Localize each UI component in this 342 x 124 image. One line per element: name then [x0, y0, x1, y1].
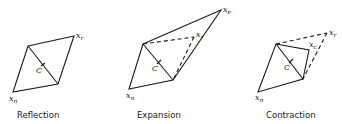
expansion-caption: Expansion	[137, 110, 181, 120]
contraction-diagonal	[276, 44, 303, 79]
expansion-xn-label: xn	[126, 91, 135, 101]
contraction-reflection-edge-bottom	[303, 33, 327, 79]
reflection-caption: Reflection	[17, 110, 59, 120]
expansion-reflection-edge-bottom	[173, 37, 194, 80]
simplex-operations-diagram: xr C xn xe xr C xn xr xc C xn	[0, 0, 342, 124]
expansion-xe-label: xe	[223, 5, 232, 15]
contraction-caption: Contraction	[266, 110, 316, 120]
expansion-c-label: C	[152, 64, 158, 73]
contraction-reflection-edge-top	[276, 33, 327, 44]
reflection-xr-label: xr	[76, 31, 85, 41]
expansion-diagonal	[143, 44, 173, 80]
expansion-xr-label: xr	[196, 30, 205, 40]
contraction-xr-label: xr	[329, 28, 338, 38]
reflection-c-label: C	[36, 66, 42, 75]
contraction-c-label: C	[284, 63, 290, 72]
contraction-xn-label: xn	[255, 93, 264, 103]
reflection-xn-label: xn	[9, 94, 18, 104]
contraction-xc-label: xc	[309, 40, 318, 50]
reflection-figure: xr C xn	[9, 31, 85, 104]
expansion-figure: xe xr C xn	[126, 5, 232, 101]
contraction-figure: xr xc C xn	[255, 28, 338, 103]
